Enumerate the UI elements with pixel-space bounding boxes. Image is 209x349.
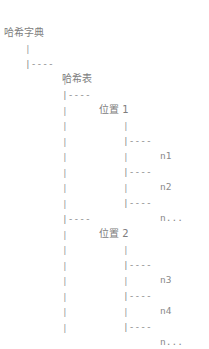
tree-row-leaf-n4: | |---- n4 <box>0 258 209 273</box>
tree-row-slot-1: |---- 位置 1 <box>0 72 209 87</box>
tree-row-leaf-n-more-2: | |---- n... <box>0 289 209 304</box>
tree-row-connector: | | <box>0 243 209 258</box>
tree-row-leaf-n2: | |---- n2 <box>0 134 209 149</box>
tree-row-connector: | <box>0 305 209 320</box>
vertical-pipe-level2: | <box>62 320 68 335</box>
tree-row-connector: | | <box>0 274 209 289</box>
tree-row-hash-table: |---- 哈希表 <box>0 41 209 56</box>
tree-row-slot-2: |---- 位置 2 <box>0 196 209 211</box>
tree-row-connector: | <box>0 181 209 196</box>
branch-connector-n-more-2: |---- <box>123 319 152 334</box>
tree-row-leaf-n3: | |---- n3 <box>0 227 209 242</box>
tree-row-connector: | | <box>0 150 209 165</box>
tree-row-connector: | | <box>0 119 209 134</box>
tree-row-connector: | | <box>0 212 209 227</box>
tree-row-connector: | <box>0 26 209 41</box>
tree-row-connector: | | <box>0 88 209 103</box>
tree-row-leaf-n-more-1: | |---- n... <box>0 165 209 180</box>
leaf-node-label-n-more-2: n... <box>160 334 183 349</box>
tree-row-leaf-n1: | |---- n1 <box>0 103 209 118</box>
tree-row-connector: | <box>0 57 209 72</box>
tree-row-root: 哈希字典 <box>0 10 209 25</box>
